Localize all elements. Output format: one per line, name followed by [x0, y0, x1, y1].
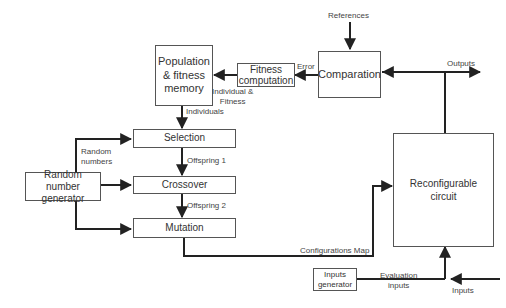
mutation-block: Mutation: [133, 218, 236, 238]
population-fitness-memory-block: Population & fitness memory: [155, 45, 213, 106]
inputs-generator-block: Inputs generator: [313, 268, 357, 291]
individual-fitness-label: Individual & Fitness: [212, 87, 253, 106]
error-label: Error: [297, 62, 315, 72]
block-label-line: generator: [26, 193, 100, 205]
block-label-line: Random number: [26, 169, 100, 193]
label-line: numbers: [81, 157, 112, 167]
fitness-computation-block: Fitness computation: [237, 63, 295, 87]
outputs-label: Outputs: [447, 59, 475, 69]
label-line: Evaluation: [380, 271, 417, 281]
label-line: Fitness: [212, 97, 253, 107]
random-number-generator-block: Random number generator: [25, 172, 101, 201]
block-label-line: computation: [239, 75, 293, 86]
references-label: References: [328, 11, 369, 21]
block-label-line: Reconfigurable: [410, 177, 477, 190]
block-label-line: & fitness: [158, 69, 210, 83]
offspring2-label: Offspring 2: [187, 201, 226, 211]
block-label: Comparation: [318, 68, 381, 82]
reconfigurable-circuit-block: Reconfigurable circuit: [393, 133, 494, 247]
configurations-map-label: Configurations Map: [300, 246, 369, 256]
block-label: Selection: [164, 132, 205, 145]
block-label-line: Inputs: [318, 270, 352, 280]
crossover-block: Crossover: [133, 176, 236, 194]
block-label-line: Fitness: [239, 64, 293, 75]
offspring1-label: Offspring 1: [187, 156, 226, 166]
label-line: Individual &: [212, 87, 253, 97]
block-label-line: Population: [158, 55, 210, 69]
inputs-label: Inputs: [452, 286, 474, 296]
block-label-line: memory: [158, 82, 210, 96]
selection-block: Selection: [133, 129, 236, 148]
individuals-label: Individuals: [186, 107, 224, 117]
comparation-block: Comparation: [318, 51, 381, 98]
block-label: Crossover: [162, 179, 208, 192]
block-label-line: circuit: [410, 190, 477, 203]
evaluation-inputs-label: Evaluation inputs: [380, 271, 417, 290]
random-numbers-label: Random numbers: [81, 147, 112, 166]
block-label-line: generator: [318, 280, 352, 290]
label-line: Random: [81, 147, 112, 157]
label-line: inputs: [380, 281, 417, 291]
block-label: Mutation: [165, 222, 203, 235]
